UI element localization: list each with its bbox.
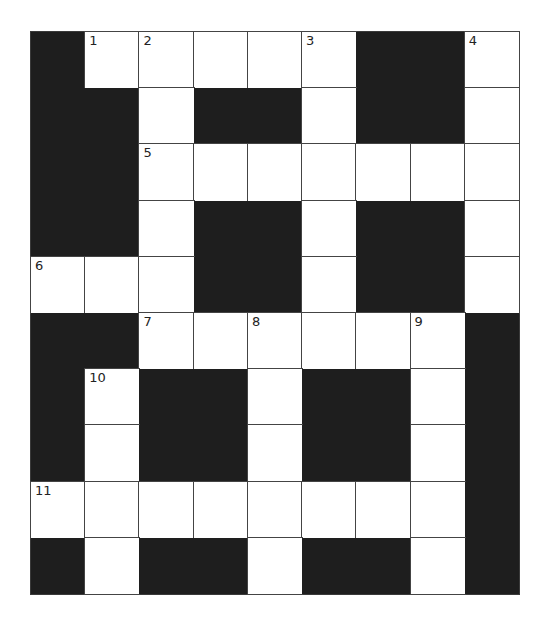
block-cell — [248, 257, 302, 313]
answer-cell[interactable] — [411, 425, 465, 481]
answer-cell[interactable] — [302, 201, 356, 257]
answer-cell[interactable] — [356, 144, 410, 200]
block-cell — [356, 32, 410, 88]
block-cell — [194, 201, 248, 257]
block-cell — [31, 369, 85, 425]
block-cell — [302, 538, 356, 594]
block-cell — [139, 425, 193, 481]
block-cell — [194, 257, 248, 313]
answer-cell[interactable] — [248, 538, 302, 594]
block-cell — [465, 482, 519, 538]
answer-cell[interactable] — [248, 482, 302, 538]
block-cell — [356, 201, 410, 257]
answer-cell[interactable]: 2 — [139, 32, 193, 88]
answer-cell[interactable] — [356, 482, 410, 538]
block-cell — [411, 88, 465, 144]
block-cell — [411, 257, 465, 313]
answer-cell[interactable] — [85, 482, 139, 538]
answer-cell[interactable] — [248, 425, 302, 481]
block-cell — [31, 32, 85, 88]
answer-cell[interactable] — [465, 257, 519, 313]
block-cell — [31, 313, 85, 369]
answer-cell[interactable]: 6 — [31, 257, 85, 313]
answer-cell[interactable]: 9 — [411, 313, 465, 369]
block-cell — [31, 144, 85, 200]
answer-cell[interactable] — [194, 313, 248, 369]
answer-cell[interactable]: 5 — [139, 144, 193, 200]
answer-cell[interactable] — [85, 425, 139, 481]
block-cell — [356, 369, 410, 425]
clue-number: 6 — [35, 259, 43, 272]
block-cell — [85, 313, 139, 369]
block-cell — [302, 425, 356, 481]
block-cell — [411, 201, 465, 257]
block-cell — [194, 538, 248, 594]
block-cell — [465, 369, 519, 425]
clue-number: 1 — [89, 34, 97, 47]
answer-cell[interactable] — [465, 201, 519, 257]
block-cell — [194, 369, 248, 425]
block-cell — [356, 88, 410, 144]
clue-number: 8 — [252, 315, 260, 328]
answer-cell[interactable] — [85, 257, 139, 313]
block-cell — [85, 88, 139, 144]
block-cell — [85, 201, 139, 257]
answer-cell[interactable] — [248, 144, 302, 200]
block-cell — [465, 313, 519, 369]
block-cell — [356, 425, 410, 481]
clue-number: 10 — [89, 371, 106, 384]
clue-number: 4 — [469, 34, 477, 47]
block-cell — [356, 538, 410, 594]
answer-cell[interactable]: 8 — [248, 313, 302, 369]
answer-cell[interactable] — [302, 144, 356, 200]
clue-number: 5 — [143, 146, 151, 159]
answer-cell[interactable] — [139, 257, 193, 313]
block-cell — [302, 369, 356, 425]
answer-cell[interactable] — [356, 313, 410, 369]
block-cell — [31, 425, 85, 481]
block-cell — [248, 88, 302, 144]
answer-cell[interactable]: 4 — [465, 32, 519, 88]
block-cell — [31, 538, 85, 594]
answer-cell[interactable] — [248, 369, 302, 425]
answer-cell[interactable] — [139, 201, 193, 257]
answer-cell[interactable] — [411, 482, 465, 538]
answer-cell[interactable] — [194, 482, 248, 538]
answer-cell[interactable] — [194, 144, 248, 200]
crossword-grid: 1234567891011 — [30, 31, 520, 595]
answer-cell[interactable]: 10 — [85, 369, 139, 425]
block-cell — [248, 201, 302, 257]
answer-cell[interactable] — [302, 88, 356, 144]
answer-cell[interactable] — [85, 538, 139, 594]
answer-cell[interactable] — [139, 482, 193, 538]
answer-cell[interactable] — [302, 313, 356, 369]
clue-number: 9 — [415, 315, 423, 328]
answer-cell[interactable]: 3 — [302, 32, 356, 88]
answer-cell[interactable] — [302, 482, 356, 538]
answer-cell[interactable]: 11 — [31, 482, 85, 538]
block-cell — [465, 538, 519, 594]
block-cell — [356, 257, 410, 313]
answer-cell[interactable] — [248, 32, 302, 88]
clue-number: 7 — [143, 315, 151, 328]
answer-cell[interactable]: 7 — [139, 313, 193, 369]
answer-cell[interactable] — [465, 144, 519, 200]
answer-cell[interactable] — [411, 144, 465, 200]
block-cell — [194, 425, 248, 481]
answer-cell[interactable]: 1 — [85, 32, 139, 88]
clue-number: 2 — [143, 34, 151, 47]
block-cell — [194, 88, 248, 144]
block-cell — [31, 88, 85, 144]
block-cell — [465, 425, 519, 481]
answer-cell[interactable] — [465, 88, 519, 144]
answer-cell[interactable] — [302, 257, 356, 313]
answer-cell[interactable] — [411, 369, 465, 425]
block-cell — [31, 201, 85, 257]
block-cell — [139, 538, 193, 594]
block-cell — [85, 144, 139, 200]
answer-cell[interactable] — [194, 32, 248, 88]
clue-number: 3 — [306, 34, 314, 47]
answer-cell[interactable] — [411, 538, 465, 594]
answer-cell[interactable] — [139, 88, 193, 144]
block-cell — [139, 369, 193, 425]
